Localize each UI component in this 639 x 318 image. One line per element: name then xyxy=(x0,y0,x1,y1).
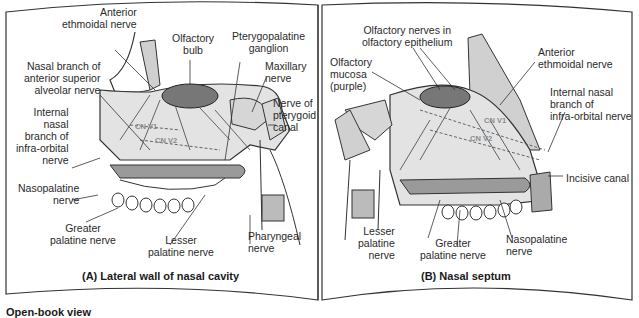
label-nasopalatine-b: Nasopalatine nerve xyxy=(506,233,567,257)
label-greater-palatine-b: Greater palatine nerve xyxy=(420,237,486,261)
label-incisive-canal: Incisive canal xyxy=(566,172,629,184)
label-nasal-branch-asa: Nasal branch of anterior superior alveol… xyxy=(24,60,100,96)
label-greater-palatine-a: Greater palatine nerve xyxy=(50,222,116,246)
label-olfactory-mucosa: Olfactory mucosa (purple) xyxy=(330,56,372,92)
label-pharyngeal-nerve: Pharyngeal nerve xyxy=(248,230,301,254)
label-internal-nasal-b: Internal nasal branch of infra-orbital n… xyxy=(550,86,632,122)
label-nerve-pterygoid-canal: Nerve of pterygoid canal xyxy=(273,97,316,133)
label-cn-v2-b: CN V2 xyxy=(470,134,492,143)
label-anterior-ethmoidal-b: Anterior ethmoidal nerve xyxy=(538,46,613,70)
label-cn-v2-a: CN V2 xyxy=(155,136,177,145)
label-anterior-ethmoidal-a: Anterior ethmoidal nerve xyxy=(62,6,137,30)
footer-label: Open-book view xyxy=(6,306,91,318)
label-lesser-palatine-a: Lesser palatine nerve xyxy=(148,234,214,258)
label-maxillary-nerve: Maxillary nerve xyxy=(265,60,306,84)
label-cn-v1-b: CN V1 xyxy=(484,116,506,125)
label-olfactory-nerves: Olfactory nerves in olfactory epithelium xyxy=(362,24,452,48)
label-internal-nasal-a: Internal nasal branch of infra-orbital n… xyxy=(16,106,69,166)
caption-panel-a: (A) Lateral wall of nasal cavity xyxy=(82,270,239,282)
label-cn-v1-a: CN V1 xyxy=(135,122,157,131)
caption-panel-b: (B) Nasal septum xyxy=(421,270,511,282)
label-nasopalatine-a: Nasopalatine nerve xyxy=(18,182,79,206)
label-lesser-palatine-b: Lesser palatine nerve xyxy=(358,225,395,261)
label-pterygopalatine-ganglion: Pterygopalatine ganglion xyxy=(232,30,305,54)
label-olfactory-bulb: Olfactory bulb xyxy=(172,32,214,56)
